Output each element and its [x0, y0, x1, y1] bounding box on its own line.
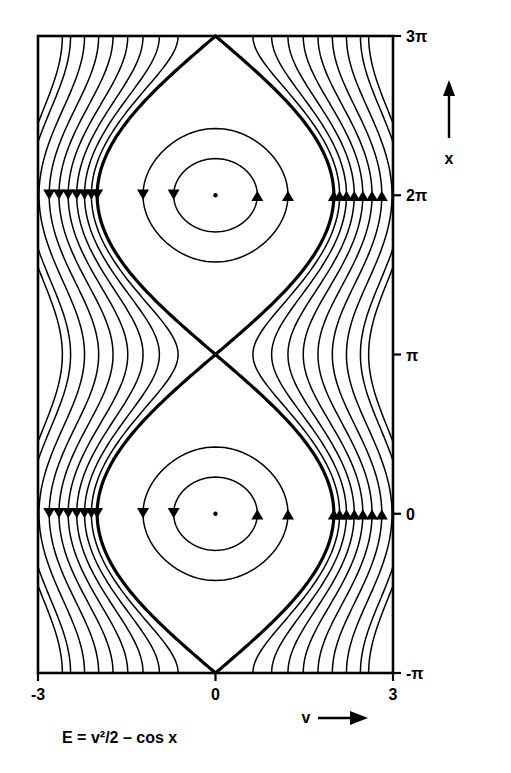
flow-arrow-down-1-8: [168, 190, 180, 200]
x-tick-label-2: 3: [389, 686, 398, 703]
y-tick-label-2: π: [406, 347, 418, 364]
y-tick-label-0: 3π: [406, 28, 427, 45]
fixed-point-center-1: [213, 193, 217, 197]
x-axis-label: v: [302, 709, 311, 726]
x-tick-label-1: 0: [211, 686, 220, 703]
contour-rotation-right-2: [288, 36, 354, 673]
contour-rotation-right-5: [332, 36, 381, 673]
flow-arrow-down-0-4: [53, 508, 65, 518]
flow-arrow-up-1-5: [376, 191, 388, 201]
flow-arrow-up-0-9: [282, 509, 294, 519]
flow-arrow-up-0-8: [251, 509, 263, 519]
flow-arrow-up-1-8: [251, 191, 263, 201]
equation-caption: E = v²/2 – cos x: [62, 729, 177, 746]
y-tick-label-1: 2π: [406, 187, 427, 204]
flow-arrow-up-1-9: [282, 191, 294, 201]
flow-arrow-down-1-4: [53, 190, 65, 200]
flow-arrow-down-0-5: [43, 508, 55, 518]
y-axis-label: x: [445, 150, 454, 167]
flow-arrow-down-1-9: [137, 190, 149, 200]
flow-arrow-down-0-8: [168, 508, 180, 518]
y-tick-label-3: 0: [406, 506, 415, 523]
flow-arrow-up-0-4: [366, 509, 378, 519]
flow-arrow-down-1-5: [43, 190, 55, 200]
y-tick-label-4: -π: [406, 665, 424, 682]
x-axis-arrow-head: [350, 711, 368, 725]
flow-arrow-down-0-9: [137, 508, 149, 518]
contour-rotation-left-7: [38, 36, 71, 673]
y-axis-arrow-head: [443, 80, 455, 96]
contour-rotation-left-5: [49, 36, 98, 673]
plot-area: [38, 36, 393, 673]
x-tick-label-0: -3: [31, 686, 45, 703]
flow-arrow-up-1-4: [366, 191, 378, 201]
contour-rotation-right-7: [360, 36, 393, 673]
phase-portrait-figure: 3π2ππ0-π-303xvE = v²/2 – cos x: [0, 0, 511, 773]
contour-rotation-left-2: [77, 36, 143, 673]
flow-arrow-up-0-5: [376, 509, 388, 519]
fixed-point-center-0: [213, 512, 217, 516]
